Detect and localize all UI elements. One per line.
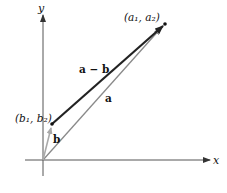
vector-a-minus-b <box>52 26 163 124</box>
point-a-label: (a₁, a₂) <box>124 11 160 23</box>
vector-subtraction-diagram: y x (a₁, a₂) (b₁, b₂) a − b a b <box>0 0 227 193</box>
vector-a <box>43 28 161 160</box>
x-axis-label: x <box>213 154 220 167</box>
vector-b-label: b <box>53 133 60 145</box>
y-axis-label: y <box>37 2 45 15</box>
point-b-label: (b₁, b₂) <box>15 112 52 124</box>
vector-a-minus-b-label: a − b <box>79 63 109 75</box>
point-a-tip <box>163 22 167 26</box>
vector-a-label: a <box>105 92 112 104</box>
